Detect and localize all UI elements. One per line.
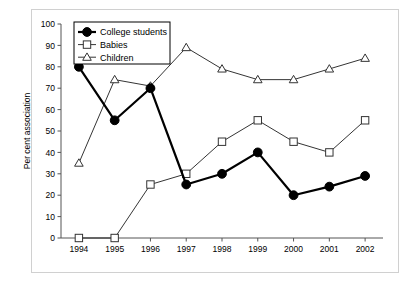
y-axis-title: Per cent association <box>22 92 32 169</box>
line-chart-plot: 0102030405060708090100199419951996199719… <box>0 0 408 285</box>
data-point <box>218 138 225 145</box>
x-tick-label: 1994 <box>69 244 88 254</box>
data-point <box>110 75 119 82</box>
data-point <box>289 191 298 200</box>
x-tick-label: 1997 <box>177 244 196 254</box>
legend-marker <box>83 41 90 48</box>
data-point <box>147 181 154 188</box>
y-tick-label: 70 <box>46 83 56 93</box>
x-tick-label: 1999 <box>248 244 267 254</box>
data-point <box>111 234 118 241</box>
legend-label: Children <box>100 53 134 63</box>
data-point <box>182 180 191 189</box>
x-tick-label: 1996 <box>141 244 160 254</box>
data-point <box>361 172 370 181</box>
y-tick-label: 90 <box>46 41 56 51</box>
data-point <box>146 84 155 93</box>
chart-figure: 0102030405060708090100199419951996199719… <box>0 0 408 285</box>
y-tick-label: 80 <box>46 62 56 72</box>
data-point <box>361 117 368 124</box>
data-point <box>325 182 334 191</box>
x-tick-label: 2002 <box>356 244 375 254</box>
x-tick-label: 2000 <box>284 244 303 254</box>
y-tick-label: 60 <box>46 105 56 115</box>
data-point <box>110 116 119 125</box>
y-tick-label: 10 <box>46 212 56 222</box>
y-tick-label: 0 <box>50 233 55 243</box>
y-tick-label: 20 <box>46 190 56 200</box>
data-point <box>182 43 191 50</box>
series-babies <box>75 117 369 242</box>
y-tick-label: 100 <box>41 19 55 29</box>
y-tick-label: 30 <box>46 169 56 179</box>
data-point <box>218 169 227 178</box>
data-point <box>75 159 84 166</box>
data-point <box>253 148 262 157</box>
legend-marker <box>83 28 92 37</box>
data-point <box>361 54 370 61</box>
data-point <box>326 149 333 156</box>
data-point <box>75 234 82 241</box>
chart-legend: College studentsBabiesChildren <box>74 22 170 64</box>
legend-label: Babies <box>100 40 128 50</box>
x-tick-label: 2001 <box>320 244 339 254</box>
data-point <box>218 65 227 72</box>
y-tick-label: 40 <box>46 148 56 158</box>
y-tick-label: 50 <box>46 126 56 136</box>
data-point <box>254 117 261 124</box>
x-tick-label: 1998 <box>213 244 232 254</box>
x-tick-label: 1995 <box>105 244 124 254</box>
data-point <box>290 138 297 145</box>
legend-label: College students <box>100 27 168 37</box>
